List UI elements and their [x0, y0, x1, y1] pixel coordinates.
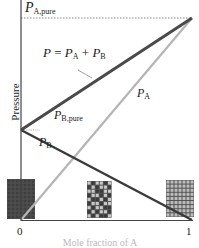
total-pressure-label: P = PA + PB	[43, 46, 106, 61]
total-pa: P	[65, 45, 73, 60]
pb-sub: B	[46, 141, 51, 150]
x-axis-label: Mole fraction of A	[40, 237, 160, 248]
pa-pure-label-main: P	[25, 0, 34, 15]
total-p: P	[43, 45, 51, 60]
pure-a-composition-box	[166, 180, 194, 217]
x-tick-1: 1	[186, 226, 192, 237]
total-callout-leader	[78, 70, 92, 78]
pa-sub: A	[144, 92, 150, 101]
pa-label: PA	[137, 87, 150, 101]
total-pressure-line	[21, 18, 192, 130]
pb-label: PB	[39, 136, 52, 150]
y-axis-label: Pressure	[9, 77, 21, 127]
mixed-composition-box	[87, 181, 112, 218]
pa-pure-label: PA,pure	[25, 1, 56, 16]
x-tick-0: 0	[17, 226, 23, 237]
total-pb-sub: B	[100, 52, 105, 61]
total-eq: =	[51, 45, 65, 60]
pb-pure-label: PB,pure	[54, 109, 83, 123]
pa-pure-label-sub: A,pure	[34, 7, 56, 16]
pb-pure-sub: B,pure	[61, 114, 83, 123]
total-plus: +	[79, 45, 93, 60]
